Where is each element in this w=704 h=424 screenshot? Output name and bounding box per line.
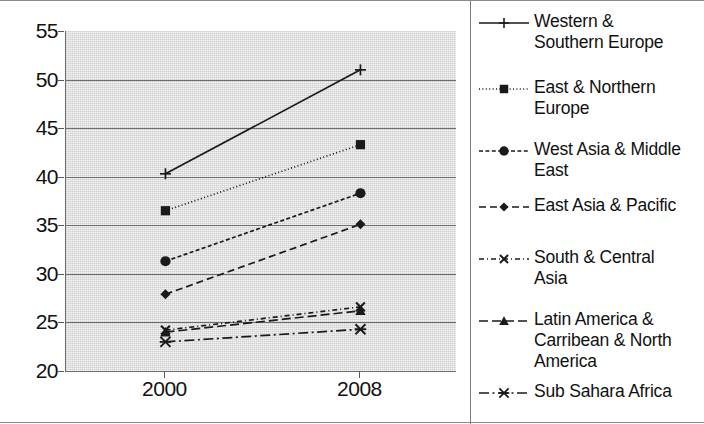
plot-pane: 2025303540455055 20002008 xyxy=(0,1,470,424)
data-point-marker xyxy=(161,206,170,215)
legend-item-6: Sub Sahara Africa xyxy=(478,383,672,403)
legend-key-plus-icon xyxy=(478,13,530,33)
series-line xyxy=(165,307,360,330)
legend-key-asterisk-icon xyxy=(478,383,530,403)
series-line xyxy=(165,224,360,294)
legend-item-4: South & Central Asia xyxy=(478,249,655,289)
y-tick-mark xyxy=(58,225,64,226)
legend-key-diamond-icon xyxy=(478,197,530,217)
legend-key-x-icon xyxy=(478,249,530,269)
y-tick-mark xyxy=(58,128,64,129)
series-line xyxy=(165,311,360,332)
legend-label: Sub Sahara Africa xyxy=(534,381,672,402)
legend-label: Western & Southern Europe xyxy=(534,11,663,53)
y-tick-mark xyxy=(58,371,64,372)
legend-item-1: East & Northern Europe xyxy=(478,79,656,119)
y-tick-label: 50 xyxy=(18,68,58,92)
legend-item-2: West Asia & Middle East xyxy=(478,141,681,181)
y-tick-mark xyxy=(58,31,64,32)
y-tick-mark xyxy=(58,177,64,178)
series-line xyxy=(165,193,360,261)
series-2 xyxy=(160,188,365,266)
legend-item-3: East Asia & Pacific xyxy=(478,197,676,217)
chart-legend: Western & Southern EuropeEast & Northern… xyxy=(478,9,704,416)
series-3 xyxy=(160,219,365,299)
legend-label: West Asia & Middle East xyxy=(534,139,681,181)
legend-key-triangle-icon xyxy=(478,311,530,331)
data-point-marker xyxy=(355,219,365,229)
y-tick-mark xyxy=(58,322,64,323)
data-point-marker xyxy=(356,140,365,149)
y-tick-mark xyxy=(58,274,64,275)
legend-item-0: Western & Southern Europe xyxy=(478,13,663,53)
y-tick-label: 45 xyxy=(18,116,58,140)
legend-key-circle-icon xyxy=(478,141,530,161)
y-tick-label: 40 xyxy=(18,165,58,189)
data-point-marker xyxy=(355,188,365,198)
legend-label: East Asia & Pacific xyxy=(534,195,676,216)
legend-label: East & Northern Europe xyxy=(534,77,656,119)
series-0 xyxy=(160,64,366,179)
series-1 xyxy=(161,140,365,215)
series-line xyxy=(165,145,360,211)
data-point-marker xyxy=(160,289,170,299)
y-axis-tick-labels: 2025303540455055 xyxy=(6,31,58,371)
x-tick-label: 2008 xyxy=(299,377,419,401)
x-tick-label: 2000 xyxy=(104,377,224,401)
series-layer xyxy=(66,31,456,371)
y-tick-mark xyxy=(58,80,64,81)
y-tick-label: 55 xyxy=(18,19,58,43)
y-tick-label: 30 xyxy=(18,262,58,286)
legend-label: Latin America & Carribean & North Americ… xyxy=(534,309,672,372)
series-line xyxy=(165,70,360,174)
legend-item-5: Latin America & Carribean & North Americ… xyxy=(478,311,672,372)
y-tick-label: 35 xyxy=(18,213,58,237)
y-tick-label: 20 xyxy=(18,359,58,383)
legend-label: South & Central Asia xyxy=(534,247,655,289)
plot-area xyxy=(65,31,456,372)
data-point-marker xyxy=(160,256,170,266)
legend-divider xyxy=(470,1,471,424)
legend-key-square-icon xyxy=(478,79,530,99)
y-tick-label: 25 xyxy=(18,310,58,334)
series-line xyxy=(165,329,360,342)
